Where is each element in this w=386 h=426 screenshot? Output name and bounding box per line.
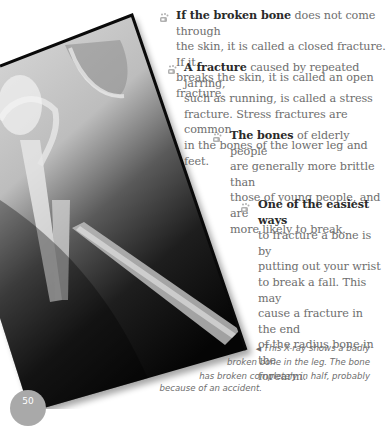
bone-paw-bullet-icon <box>158 12 170 24</box>
fact-lead: The bones <box>230 128 293 142</box>
bone-paw-bullet-icon <box>239 202 251 214</box>
fact-lead: If the broken bone <box>176 8 291 22</box>
page-number-badge: 50 <box>10 390 46 426</box>
bone-paw-bullet-icon <box>211 132 223 144</box>
page-number: 50 <box>22 396 33 406</box>
bone-paw-bullet-icon <box>166 64 178 76</box>
figure-caption: ◀ This X-ray shows a badly broken bone i… <box>180 342 370 383</box>
fact-lead: A fracture <box>184 60 247 74</box>
fact-lead: One of the easiest ways <box>258 197 369 227</box>
figure-caption-last-line: because of an accident. <box>150 382 262 395</box>
caption-arrow-icon: ◀ <box>256 345 261 353</box>
